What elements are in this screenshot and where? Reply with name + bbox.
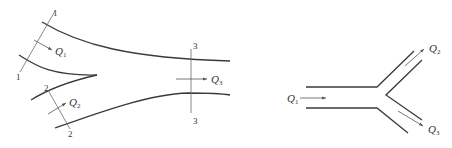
right-q3-label: Q3 — [428, 123, 440, 137]
section-2-line — [48, 90, 70, 129]
y-branch-diagram: Q1 Q2 Q3 — [287, 42, 441, 137]
q1-label: Q1 — [55, 45, 67, 59]
right-q1-label: Q1 — [287, 92, 299, 106]
q1-arrow — [34, 40, 52, 50]
confluence-diagram: 1 1 Q1 2 2 Q2 3 3 Q3 — [16, 8, 230, 139]
section-3-bottom-label: 3 — [193, 116, 198, 126]
pipe-inner-wall — [386, 60, 422, 120]
q2-arrow — [48, 103, 66, 114]
section-1-top-label: 1 — [53, 8, 58, 18]
pipe-top-wall — [306, 51, 414, 87]
branch2-top-wall — [31, 75, 97, 100]
section-2-bottom-label: 2 — [68, 129, 73, 139]
section-3-top-label: 3 — [193, 41, 198, 51]
flow-diagram: 1 1 Q1 2 2 Q2 3 3 Q3 Q1 Q2 — [0, 0, 452, 148]
q2-label: Q2 — [69, 96, 81, 110]
channel-top-wall — [42, 22, 230, 61]
section-2-top-label: 2 — [44, 83, 49, 93]
right-q2-label: Q2 — [429, 42, 441, 56]
branch1-bottom-wall — [19, 55, 97, 75]
channel-bottom-wall — [55, 93, 230, 128]
pipe-bottom-wall — [306, 108, 408, 133]
section-1-bottom-label: 1 — [16, 72, 21, 82]
q3-label: Q3 — [211, 73, 223, 87]
